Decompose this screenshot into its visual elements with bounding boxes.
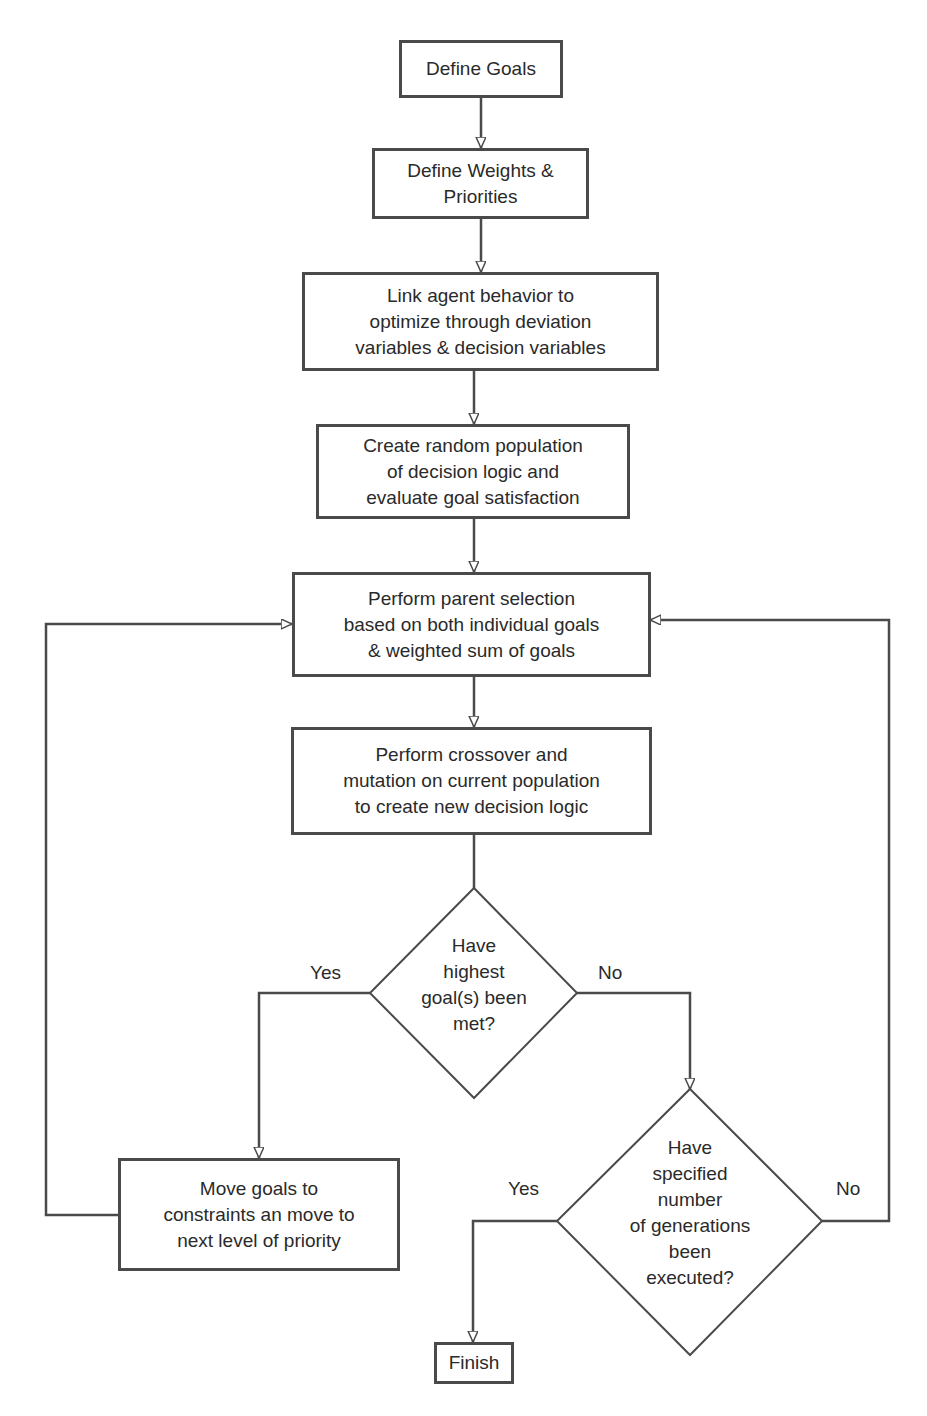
decision-goals-met-text: Have highest goal(s) been met?	[394, 930, 554, 1040]
node-finish: Finish	[434, 1342, 514, 1384]
node-create-population-text: Create random population of decision log…	[363, 433, 583, 511]
label-goals-met-no: No	[598, 962, 622, 984]
node-link-behavior: Link agent behavior to optimize through …	[302, 272, 659, 371]
node-crossover-mutation: Perform crossover and mutation on curren…	[291, 727, 652, 835]
node-finish-text: Finish	[449, 1350, 500, 1376]
node-crossover-mutation-text: Perform crossover and mutation on curren…	[343, 742, 600, 820]
node-create-population: Create random population of decision log…	[316, 424, 630, 519]
node-define-weights-text: Define Weights & Priorities	[407, 158, 553, 210]
arrow-move-goals-loop	[46, 624, 292, 1215]
arrow-yes-to-move-goals	[259, 993, 370, 1158]
node-move-goals: Move goals to constraints an move to nex…	[118, 1158, 400, 1271]
node-parent-selection-text: Perform parent selection based on both i…	[344, 586, 600, 664]
label-goals-met-yes: Yes	[310, 962, 341, 984]
arrow-generations-yes-to-finish	[473, 1221, 557, 1342]
label-generations-no: No	[836, 1178, 860, 1200]
node-move-goals-text: Move goals to constraints an move to nex…	[163, 1176, 354, 1254]
node-define-weights: Define Weights & Priorities	[372, 148, 589, 219]
arrow-no-to-decision2	[577, 993, 690, 1089]
label-generations-yes: Yes	[508, 1178, 539, 1200]
node-link-behavior-text: Link agent behavior to optimize through …	[355, 283, 605, 361]
node-parent-selection: Perform parent selection based on both i…	[292, 572, 651, 677]
node-define-goals: Define Goals	[399, 40, 563, 98]
node-define-goals-text: Define Goals	[426, 56, 536, 82]
decision-generations-text: Have specified number of generations bee…	[600, 1133, 780, 1293]
